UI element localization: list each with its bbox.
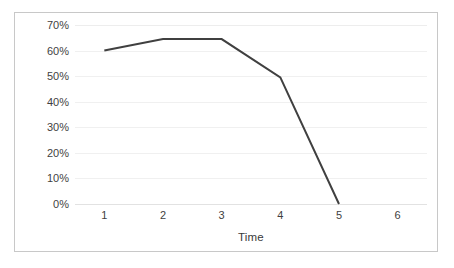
x-axis-tick-label: 5 [336, 209, 342, 221]
gridline [75, 204, 427, 205]
y-axis-tick-label: 30% [25, 121, 69, 133]
x-axis-tick-label: 6 [395, 209, 401, 221]
x-axis-tick-label: 4 [277, 209, 283, 221]
x-axis-tick-label: 1 [101, 209, 107, 221]
y-axis-tick-label: 20% [25, 147, 69, 159]
y-axis-tick-labels: 0%10%20%30%40%50%60%70% [21, 25, 69, 204]
y-axis-tick-label: 60% [25, 45, 69, 57]
y-axis-tick-label: 0% [25, 198, 69, 210]
x-axis-tick-label: 2 [160, 209, 166, 221]
x-axis-tick-labels: 123456 [75, 209, 427, 225]
x-axis-title-label: Time [238, 231, 264, 243]
series-line-chart [75, 25, 427, 204]
y-axis-tick-label: 40% [25, 96, 69, 108]
chart-container: Function 0%10%20%30%40%50%60%70% 123456 … [14, 12, 438, 252]
x-axis-title: Time [75, 231, 427, 243]
x-axis-tick-label: 3 [219, 209, 225, 221]
y-axis-tick-label: 50% [25, 70, 69, 82]
y-axis-tick-label: 70% [25, 19, 69, 31]
y-axis-tick-label: 10% [25, 172, 69, 184]
plot-area [75, 25, 427, 204]
series-line [104, 39, 339, 204]
